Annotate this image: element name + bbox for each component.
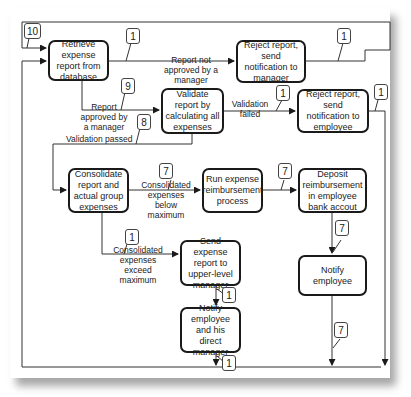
node-notify-employee[interactable]: Notify employee [298,255,367,296]
node-label: Run expense reimbursement process [203,174,263,207]
callout-send-to-notify: 1 [222,287,236,303]
node-validate[interactable]: Validate report by calculating all expen… [161,88,224,134]
node-label: Notify employee [302,265,363,287]
callout-below-max: 7 [159,163,173,179]
callout-reject-employee-out: 1 [374,84,388,100]
node-label: Retrieve expense report from database [52,39,105,83]
node-deposit[interactable]: Deposit reimbursement in employee bank a… [298,168,367,213]
callout-validation-failed: 1 [276,85,290,101]
node-reject-employee[interactable]: Reject report, send notification to empl… [297,89,369,133]
callout-notify-employee-out: 7 [334,322,348,338]
callout-not-approved: 1 [126,28,140,44]
callout-approved: 9 [121,78,135,94]
node-label: Validate report by calculating all expen… [165,89,220,133]
node-label: Reject report, send notification to empl… [301,89,365,133]
node-retrieve[interactable]: Retrieve expense report from database [48,40,109,81]
node-label: Consolidate report and actual group expe… [72,169,125,213]
node-label: Send expense report to upper-level manag… [184,236,237,291]
node-reject-manager[interactable]: Reject report, send notification to mana… [236,40,306,83]
node-label: Notify employee and his direct manager [184,303,237,358]
callout-validation-passed: 8 [137,114,151,130]
node-label: Deposit reimbursement in employee bank a… [302,169,363,213]
callout-run-to-deposit: 7 [278,163,292,179]
edge-label-below-max: Consolidated expenses below maximum [137,180,195,220]
node-notify-employee-manager[interactable]: Notify employee and his direct manager [180,307,241,353]
edge-label-not-approved: Report not approved by a manager [155,55,227,85]
node-send-upper-manager[interactable]: Send expense report to upper-level manag… [180,240,241,286]
callout-exceed-max: 1 [125,229,139,245]
node-run-reimbursement[interactable]: Run expense reimbursement process [202,168,263,213]
edge-label-approved: Report approved by a manager [80,102,128,132]
edge-label-exceed-max: Consolidated expenses exceed maximum [105,245,171,285]
callout-reject-manager-out: 1 [337,28,351,44]
edge-label-validation-passed: Validation passed [66,134,132,144]
node-consolidate[interactable]: Consolidate report and actual group expe… [68,168,129,213]
node-label: Reject report, send notification to mana… [240,40,302,84]
edge-label-validation-failed: Validation failed [229,99,271,119]
callout-deposit-to-notify: 7 [335,220,349,236]
callout-notify-both-out: 1 [222,355,236,371]
callout-loop: 10 [24,23,41,39]
